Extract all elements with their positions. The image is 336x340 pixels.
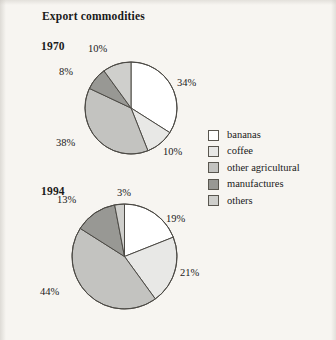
legend-item-coffee: coffee xyxy=(208,143,300,159)
legend-label-manufactures: manufactures xyxy=(227,179,284,190)
pie-year-label-1970: 1970 xyxy=(41,40,65,52)
pie-chart-1970 xyxy=(84,61,178,155)
paper-edge-top xyxy=(0,0,336,5)
pie-slice-label-1994-coffee: 21% xyxy=(180,268,199,279)
pie-slice-label-1970-coffee: 10% xyxy=(163,147,182,158)
pie-slice-label-1970-bananas: 34% xyxy=(177,78,196,89)
legend-item-manufactures: manufactures xyxy=(208,176,300,192)
pie-slice-label-1994-other-agricultural: 44% xyxy=(40,287,59,298)
pie-chart-1994-svg xyxy=(71,203,178,310)
pie-slice-label-1970-others: 10% xyxy=(88,44,107,55)
pie-chart-1994 xyxy=(71,203,178,310)
legend-swatch-manufactures xyxy=(208,179,219,190)
pie-chart-1970-svg xyxy=(84,61,178,155)
legend-item-bananas: bananas xyxy=(208,127,300,143)
legend-swatch-others xyxy=(208,195,219,206)
pie-slice-label-1994-bananas: 19% xyxy=(166,214,185,225)
legend-label-others: others xyxy=(227,196,253,207)
legend-label-bananas: bananas xyxy=(227,130,261,141)
legend-item-others: others xyxy=(208,193,300,209)
legend-label-coffee: coffee xyxy=(227,146,253,157)
legend-label-other-agricultural: other agricultural xyxy=(227,163,300,174)
paper-edge-left xyxy=(0,0,6,340)
page-title: Export commodities xyxy=(42,10,145,22)
legend-swatch-other-agricultural xyxy=(208,162,219,173)
legend-swatch-bananas xyxy=(208,130,219,141)
pie-slice-label-1994-others: 3% xyxy=(117,188,131,199)
chart-page: Export commodities 1970 34% 10% 38% 8% 1… xyxy=(0,0,336,340)
pie-slice-label-1994-manufactures: 13% xyxy=(57,195,76,206)
paper-edge-right xyxy=(331,0,336,340)
legend-item-other-agricultural: other agricultural xyxy=(208,160,300,176)
pie-slice-label-1970-other-agricultural: 38% xyxy=(56,138,75,149)
pie-slice-label-1970-manufactures: 8% xyxy=(59,67,73,78)
legend-swatch-coffee xyxy=(208,146,219,157)
legend: bananas coffee other agricultural manufa… xyxy=(208,127,300,209)
